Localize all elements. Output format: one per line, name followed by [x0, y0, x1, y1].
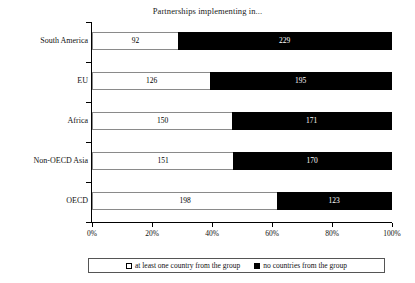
x-axis-tick: [212, 223, 213, 227]
bar-segment-light: 126: [92, 72, 210, 90]
bar-value-label: 198: [179, 197, 190, 205]
y-axis-tick: [86, 142, 91, 143]
x-axis-tick: [332, 223, 333, 227]
y-axis-tick: [86, 62, 91, 63]
x-axis-line: [91, 222, 392, 223]
y-axis-category-label: Africa: [68, 116, 88, 125]
bar-value-label: 171: [306, 117, 317, 125]
bar-segment-light: 198: [92, 192, 277, 210]
x-axis-tick-label: 80%: [312, 229, 352, 238]
y-axis-category-label: EU: [77, 76, 88, 85]
bar-value-label: 170: [306, 157, 317, 165]
x-axis-tick-label: 20%: [132, 229, 172, 238]
y-axis-tick: [86, 222, 91, 223]
bar-value-label: 229: [279, 37, 290, 45]
bar-row: 92 229: [92, 32, 392, 50]
bar-segment-light: 150: [92, 112, 232, 130]
bar-value-label: 123: [328, 197, 339, 205]
light-square-icon: [126, 263, 132, 269]
legend-item-dark: no countries from the group: [254, 261, 347, 270]
x-axis-tick: [272, 223, 273, 227]
bar-value-label: 195: [295, 77, 306, 85]
bar-row: 151 170: [92, 152, 392, 170]
legend-label: at least one country from the group: [135, 261, 240, 270]
x-axis-tick-label: 60%: [252, 229, 292, 238]
bar-segment-dark: 229: [178, 32, 392, 50]
bar-value-label: 150: [157, 117, 168, 125]
legend-item-light: at least one country from the group: [126, 261, 240, 270]
bar-row: 150 171: [92, 112, 392, 130]
x-axis-tick-label: 0%: [72, 229, 112, 238]
stacked-bar-chart: Partnerships implementing in... South Am…: [0, 0, 415, 283]
bar-segment-dark: 123: [277, 192, 392, 210]
x-axis-tick: [392, 223, 393, 227]
x-axis-tick: [152, 223, 153, 227]
bar-segment-light: 151: [92, 152, 233, 170]
bar-value-label: 151: [157, 157, 168, 165]
legend-label: no countries from the group: [263, 261, 347, 270]
bar-segment-dark: 195: [210, 72, 392, 90]
y-axis-tick: [86, 102, 91, 103]
bar-segment-light: 92: [92, 32, 178, 50]
bar-row: 126 195: [92, 72, 392, 90]
x-axis-tick-label: 100%: [372, 229, 412, 238]
bar-segment-dark: 171: [232, 112, 392, 130]
bar-segment-dark: 170: [233, 152, 392, 170]
chart-legend: at least one country from the group no c…: [88, 258, 385, 273]
dark-square-icon: [254, 263, 260, 269]
bar-value-label: 126: [146, 77, 157, 85]
chart-title: Partnerships implementing in...: [0, 6, 415, 16]
y-axis-tick: [86, 22, 91, 23]
bar-row: 198 123: [92, 192, 392, 210]
y-axis-tick: [86, 182, 91, 183]
y-axis-category-label: South America: [40, 36, 88, 45]
y-axis-category-label: Non-OECD Asia: [34, 156, 88, 165]
y-axis-category-label: OECD: [66, 196, 88, 205]
x-axis-tick: [92, 223, 93, 227]
x-axis-tick-label: 40%: [192, 229, 232, 238]
bar-value-label: 92: [132, 37, 140, 45]
